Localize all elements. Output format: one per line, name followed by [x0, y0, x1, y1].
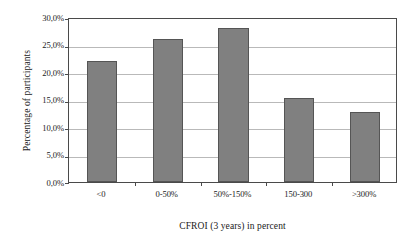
y-axis-tick-label: 15,0% — [20, 96, 64, 105]
y-axis-tick-label: 20,0% — [20, 69, 64, 78]
y-axis-tick-label: 25,0% — [20, 41, 64, 50]
x-axis-tick-mark — [332, 182, 333, 186]
bar — [87, 61, 117, 182]
x-axis-tick-mark — [201, 182, 202, 186]
bar — [284, 98, 314, 182]
x-axis-tick-mark — [135, 182, 136, 186]
y-axis-tick-label: 5,0% — [20, 151, 64, 160]
y-axis-tick-label: 0,0% — [20, 179, 64, 188]
y-axis-tick-mark — [65, 183, 69, 184]
bar — [218, 28, 248, 182]
bars-group — [69, 19, 396, 182]
bar — [350, 112, 380, 182]
y-axis-tick-labels: 0,0%5,0%10,0%15,0%20,0%25,0%30,0% — [20, 0, 64, 249]
x-axis-tick-label: 50%-150% — [200, 188, 266, 200]
x-axis-tick-mark — [266, 182, 267, 186]
x-axis-tick-label: >300% — [331, 188, 397, 200]
bar — [153, 39, 183, 182]
bar-chart-figure: Percentage of participants 0,0%5,0%10,0%… — [0, 0, 418, 249]
y-axis-tick-label: 10,0% — [20, 124, 64, 133]
x-axis-tick-label: 0-50% — [134, 188, 200, 200]
x-axis-title: CFROI (3 years) in percent — [68, 220, 397, 232]
plot-area — [68, 18, 397, 183]
x-axis-tick-labels: <00-50%50%-150%150-300>300% — [68, 188, 397, 202]
x-axis-tick-label: 150-300 — [265, 188, 331, 200]
x-axis-tick-label: <0 — [68, 188, 134, 200]
y-axis-tick-label: 30,0% — [20, 14, 64, 23]
